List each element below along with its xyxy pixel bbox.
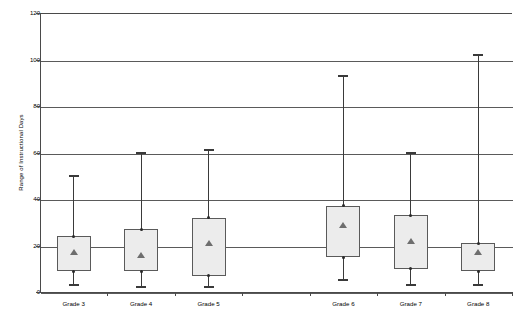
box-plot-series xyxy=(175,0,242,323)
whisker-cap-lower xyxy=(406,284,416,286)
q1-node xyxy=(477,270,480,273)
y-axis-tick-label: 60 xyxy=(6,150,40,156)
box-iqr xyxy=(326,206,360,257)
box-plot-series xyxy=(377,0,444,323)
mean-marker-icon xyxy=(407,238,415,244)
whisker-cap-lower xyxy=(338,279,348,281)
y-axis-tick-label: 0 xyxy=(6,289,40,295)
mean-marker-icon xyxy=(205,240,213,246)
q3-node xyxy=(72,235,75,238)
q1-node xyxy=(207,274,210,277)
y-axis-tick-label: 100 xyxy=(6,57,40,63)
x-axis-tick-mark xyxy=(512,292,513,296)
box-plot-series xyxy=(40,0,107,323)
y-axis-tick-label: 120 xyxy=(6,10,40,16)
mean-marker-icon xyxy=(474,249,482,255)
whisker-cap-upper xyxy=(69,175,79,177)
box-iqr xyxy=(124,229,158,271)
q1-node xyxy=(140,270,143,273)
whisker-cap-lower xyxy=(136,286,146,288)
q3-node xyxy=(140,228,143,231)
whisker-cap-lower xyxy=(69,284,79,286)
q1-node xyxy=(72,270,75,273)
y-axis-tick-group: 020406080100120 xyxy=(0,0,40,323)
whisker-cap-upper xyxy=(204,149,214,151)
whisker-cap-upper xyxy=(338,75,348,77)
whisker-cap-lower xyxy=(473,284,483,286)
box-plot-series xyxy=(107,0,174,323)
mean-marker-icon xyxy=(339,222,347,228)
whisker-cap-upper xyxy=(136,152,146,154)
box-iqr xyxy=(192,218,226,276)
whisker-cap-upper xyxy=(406,152,416,154)
box-plot-chart: Range of Instructional Days 020406080100… xyxy=(0,0,522,323)
mean-marker-icon xyxy=(137,252,145,258)
box-plot-series xyxy=(310,0,377,323)
whisker-cap-lower xyxy=(204,286,214,288)
q3-node xyxy=(477,242,480,245)
box-plot-series xyxy=(445,0,512,323)
y-axis-tick-label: 20 xyxy=(6,243,40,249)
box-iqr xyxy=(461,243,495,271)
y-axis-tick-label: 40 xyxy=(6,196,40,202)
whisker-cap-upper xyxy=(473,54,483,56)
q1-node xyxy=(409,267,412,270)
mean-marker-icon xyxy=(70,249,78,255)
y-axis-tick-label: 80 xyxy=(6,103,40,109)
q1-node xyxy=(342,256,345,259)
